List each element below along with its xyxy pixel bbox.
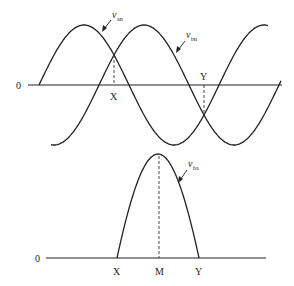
curve-v-ba xyxy=(117,154,199,258)
top-plot: 0 X Y v an v bn xyxy=(16,9,282,145)
v-bn-subscript: bn xyxy=(191,36,197,42)
bottom-marker-m-label: M xyxy=(155,266,164,277)
v-an-subscript: an xyxy=(117,16,123,22)
bottom-zero-label: 0 xyxy=(35,253,40,264)
top-marker-x-label: X xyxy=(110,91,118,102)
label-v-an: v an xyxy=(102,9,123,32)
label-v-bn: v bn xyxy=(176,29,197,53)
label-v-ba: v ba xyxy=(178,158,199,183)
top-marker-y-label: Y xyxy=(200,71,207,82)
v-ba-subscript: ba xyxy=(193,165,199,171)
bottom-marker-x-label: X xyxy=(113,266,121,277)
top-zero-label: 0 xyxy=(16,80,21,91)
bottom-marker-y-label: Y xyxy=(195,266,202,277)
waveform-diagram: 0 X Y v an v bn 0 X M Y v xyxy=(0,0,294,286)
bottom-plot: 0 X M Y v ba xyxy=(35,154,266,277)
